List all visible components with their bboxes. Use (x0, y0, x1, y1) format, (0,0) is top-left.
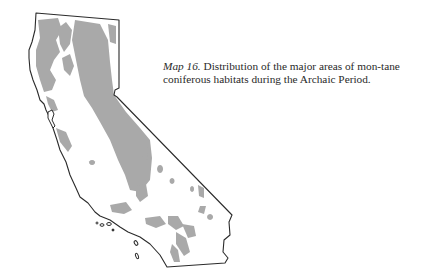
california-map (0, 0, 240, 280)
figure-label: Map 16. (163, 60, 201, 72)
map-caption: Map 16. Distribution of the major areas … (163, 60, 433, 86)
habitat-areas (36, 18, 213, 262)
channel-islands (96, 222, 139, 259)
sf-bay (48, 110, 55, 128)
